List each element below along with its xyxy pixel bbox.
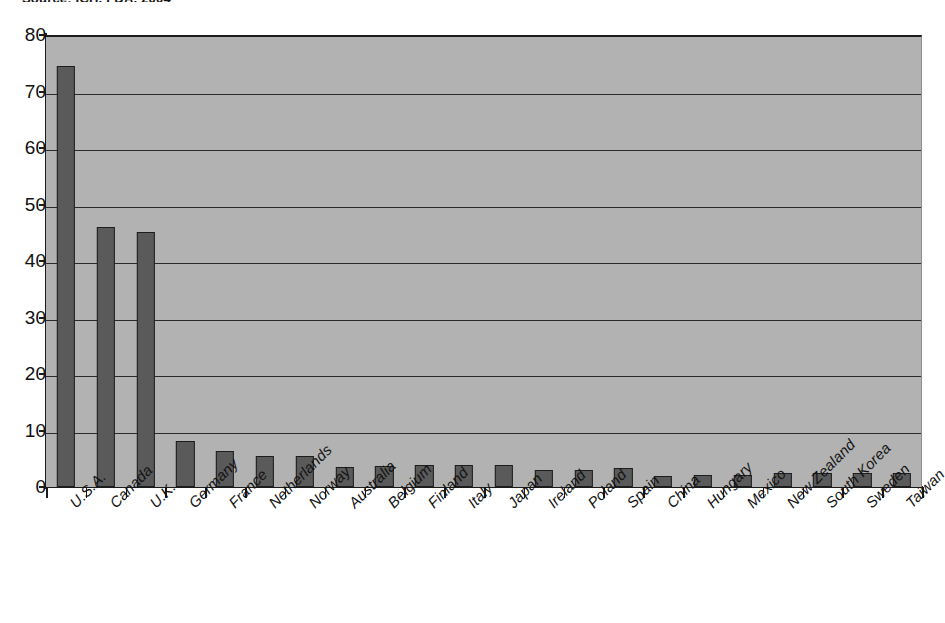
bar-slot <box>763 35 803 487</box>
bar-slot <box>205 35 245 487</box>
bar-slot <box>404 35 444 487</box>
y-tick-mark <box>39 204 46 206</box>
bar-slot <box>603 35 643 487</box>
bar-chart: Source: ICH, FDA, 2004 01020304050607080… <box>0 0 945 623</box>
y-tick-mark <box>39 260 46 262</box>
y-tick-mark <box>39 317 46 319</box>
bar-slot <box>165 35 205 487</box>
bar[interactable] <box>136 232 154 487</box>
bar-slot <box>803 35 843 487</box>
x-axis-labels: U.S.A.CanadaU.K.GermanyFranceNetherlands… <box>0 499 945 623</box>
y-tick-mark <box>39 430 46 432</box>
y-tick-mark <box>39 34 46 36</box>
bar-slot <box>126 35 166 487</box>
y-tick-mark <box>39 147 46 149</box>
bar-slot <box>365 35 405 487</box>
bar[interactable] <box>176 441 194 487</box>
bar-slot <box>524 35 564 487</box>
bar[interactable] <box>97 227 115 487</box>
bar-slot <box>564 35 604 487</box>
bar-slot <box>643 35 683 487</box>
y-tick-mark <box>39 373 46 375</box>
bar[interactable] <box>495 465 513 487</box>
y-tick-mark <box>39 91 46 93</box>
bar-slot <box>444 35 484 487</box>
bar-slot <box>86 35 126 487</box>
y-tick-mark <box>39 486 46 488</box>
bar-slot <box>683 35 723 487</box>
bar-slot <box>882 35 922 487</box>
bar-slot <box>325 35 365 487</box>
bar-slot <box>842 35 882 487</box>
bar-slot <box>285 35 325 487</box>
bar[interactable] <box>57 66 75 487</box>
bars-layer <box>46 35 922 487</box>
bar-slot <box>46 35 86 487</box>
bar-slot <box>245 35 285 487</box>
bar-slot <box>484 35 524 487</box>
x-tick-mark <box>46 487 48 498</box>
bar-slot <box>723 35 763 487</box>
